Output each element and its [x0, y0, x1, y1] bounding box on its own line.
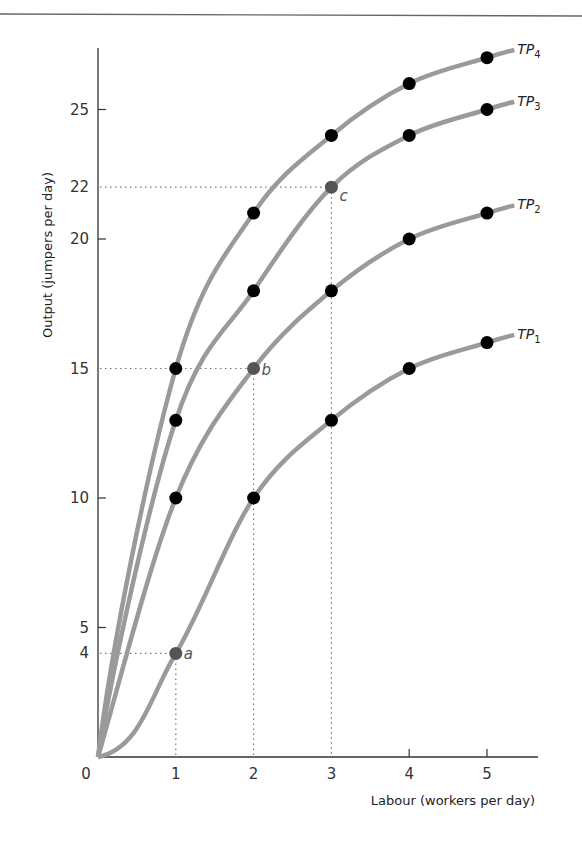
axes [98, 48, 538, 757]
x-tick-label: 4 [404, 765, 414, 783]
y-axis-title: Output (jumpers per day) [40, 172, 55, 338]
y-tick-label: 20 [70, 230, 89, 248]
curve-tp2 [98, 205, 514, 757]
data-point [247, 207, 260, 220]
curve-label-tp1: TP1 [517, 326, 540, 345]
data-point [481, 51, 494, 64]
point-a [169, 647, 182, 660]
x-axis-title: Labour (workers per day) [371, 793, 535, 808]
data-point [325, 414, 338, 427]
data-point [403, 77, 416, 90]
data-point [169, 492, 182, 505]
curve-tp4 [98, 50, 514, 757]
data-point [481, 207, 494, 220]
x-tick-label: 0 [81, 765, 91, 783]
data-point [481, 336, 494, 349]
curves [98, 50, 514, 757]
data-point [403, 233, 416, 246]
point-label-a: a [184, 645, 193, 663]
data-point [403, 362, 416, 375]
point-label-c: c [339, 187, 348, 205]
x-tick-label: 5 [482, 765, 492, 783]
data-point [403, 129, 416, 142]
point-c [325, 181, 338, 194]
x-tick-label: 3 [327, 765, 337, 783]
y-tick-label: 5 [79, 619, 89, 637]
curve-label-tp3: TP3 [517, 93, 540, 112]
curve-label-tp4: TP4 [517, 41, 540, 60]
x-tick-label: 1 [171, 765, 181, 783]
data-point [325, 284, 338, 297]
y-tick-label: 15 [70, 360, 89, 378]
curve-labels: TP1TP2TP3TP4 [517, 41, 540, 345]
data-point [247, 492, 260, 505]
y-tick-label: 10 [70, 489, 89, 507]
data-point [169, 362, 182, 375]
y-tick-label: 22 [70, 178, 89, 196]
data-point [247, 284, 260, 297]
data-point [169, 414, 182, 427]
x-tick-label: 2 [249, 765, 259, 783]
header-rule [0, 14, 582, 16]
y-tick-label: 4 [79, 644, 89, 662]
ticks: 012345451015202225 [70, 101, 492, 784]
point-label-b: b [262, 361, 272, 379]
data-point [481, 103, 494, 116]
y-tick-label: 25 [70, 101, 89, 119]
curve-label-tp2: TP2 [517, 196, 540, 215]
point-b [247, 362, 260, 375]
total-product-chart: 012345451015202225 abc TP1TP2TP3TP4 Labo… [0, 0, 582, 844]
data-point [325, 129, 338, 142]
